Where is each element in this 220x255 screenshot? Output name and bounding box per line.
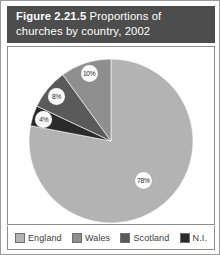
- pie-value-label-scotland: 8%: [48, 88, 65, 105]
- figure-title: Figure 2.21.5 Proportions of churches by…: [7, 6, 215, 43]
- legend-item-wales[interactable]: Wales: [72, 233, 110, 243]
- legend-swatch-ni: [180, 233, 190, 243]
- legend-item-ni[interactable]: N.I.: [180, 233, 207, 243]
- pie-chart-svg: [8, 47, 215, 225]
- figure-number: Figure 2.21.5: [16, 10, 86, 22]
- legend-label-ni: N.I.: [193, 233, 207, 243]
- legend-swatch-wales: [72, 233, 82, 243]
- figure-title-rest: Proportions of: [86, 10, 161, 22]
- chart-legend: England Wales Scotland N.I.: [7, 226, 215, 250]
- legend-label-scotland: Scotland: [133, 233, 169, 243]
- legend-swatch-scotland: [120, 233, 130, 243]
- legend-label-wales: Wales: [85, 233, 110, 243]
- legend-item-england[interactable]: England: [15, 233, 62, 243]
- figure-title-line2: churches by country, 2002: [16, 24, 208, 39]
- pie-value-label-ni: 4%: [35, 111, 52, 128]
- plot-area: 78%4%8%10%: [7, 46, 215, 225]
- pie-value-label-england: 78%: [135, 172, 152, 189]
- figure-panel: Figure 2.21.5 Proportions of churches by…: [0, 0, 220, 255]
- pie-chart: 78%4%8%10%: [8, 47, 215, 225]
- legend-swatch-england: [15, 233, 25, 243]
- legend-item-scotland[interactable]: Scotland: [120, 233, 169, 243]
- pie-value-label-wales: 10%: [81, 65, 98, 82]
- legend-label-england: England: [28, 233, 62, 243]
- pie-slice-group: [29, 59, 193, 223]
